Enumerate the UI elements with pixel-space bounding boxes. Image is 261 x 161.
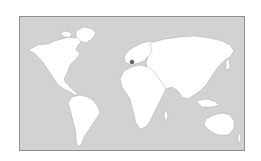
landmass-madagascar <box>164 111 168 121</box>
location-marker-icon[interactable] <box>130 60 135 65</box>
landmass-new-zealand <box>238 133 241 143</box>
world-map-graphic <box>20 17 245 151</box>
landmass-japan <box>226 59 230 71</box>
landmass-southeast-asia-islands <box>196 99 220 107</box>
continent-australia <box>204 113 234 135</box>
continent-south-america <box>68 95 100 147</box>
landmass-arctic-islands <box>60 31 72 37</box>
continent-north-america <box>28 35 86 95</box>
world-map: Western Europe (Spain/France) <box>19 16 245 151</box>
